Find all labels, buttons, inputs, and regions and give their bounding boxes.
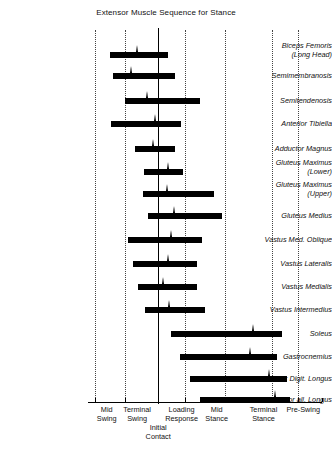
x-axis-tick-1 xyxy=(125,398,126,402)
row-label: Gluteus Maximus(Lower) xyxy=(214,159,332,176)
peak-marker xyxy=(167,162,169,169)
x-phase-label-mid-stance: MidStance xyxy=(193,405,241,423)
activity-bar xyxy=(180,354,277,360)
peak-marker xyxy=(170,230,172,237)
row-label: Semitendenosis xyxy=(214,97,332,106)
gridline-0 xyxy=(95,30,96,402)
activity-bar xyxy=(110,52,168,58)
x-axis-tick-3 xyxy=(185,398,186,402)
peak-marker xyxy=(146,91,148,98)
activity-bar xyxy=(200,397,290,403)
activity-bar xyxy=(133,261,197,267)
activity-bar xyxy=(148,213,222,219)
row-label: Semimembranosis xyxy=(214,72,332,81)
peak-marker xyxy=(162,277,164,284)
activity-bar xyxy=(144,169,183,175)
row-label: Biceps Femoris(Long Head) xyxy=(214,42,332,59)
row-label: Vastus Lateralis xyxy=(214,260,332,269)
gridline-1 xyxy=(125,30,126,402)
peak-marker xyxy=(252,324,254,331)
peak-marker xyxy=(168,300,170,307)
activity-bar xyxy=(171,331,282,337)
peak-marker xyxy=(166,184,168,191)
row-label: Adductor Magnus xyxy=(214,145,332,154)
gait-emg-chart: Extensor Muscle Sequence for Stance Bice… xyxy=(0,0,332,460)
activity-bar xyxy=(111,121,181,127)
activity-bar xyxy=(145,307,205,313)
row-label: Vastus Med. Oblique xyxy=(214,236,332,245)
row-label: Gluteus Medius xyxy=(214,212,332,221)
x-axis-tick-0 xyxy=(95,398,96,402)
x-axis-tick-2 xyxy=(158,398,159,402)
x-phase-label-pre-swing: Pre-Swing xyxy=(279,405,327,414)
peak-marker xyxy=(268,369,270,376)
peak-marker xyxy=(136,45,138,52)
row-label: Vastus Intermedius xyxy=(214,306,332,315)
activity-bar xyxy=(135,146,175,152)
activity-bar xyxy=(143,191,214,197)
activity-bar xyxy=(190,376,287,382)
peak-marker xyxy=(130,66,132,73)
plot-area: Biceps Femoris(Long Head)Semimembranosis… xyxy=(0,0,332,460)
row-label: Gluteus Maximus(Upper) xyxy=(214,181,332,198)
activity-bar xyxy=(125,98,200,104)
peak-marker xyxy=(152,139,154,146)
peak-marker xyxy=(173,206,175,213)
activity-bar xyxy=(128,237,202,243)
activity-bar xyxy=(113,73,175,79)
peak-marker xyxy=(274,390,276,397)
row-label: Anterior Tibiella xyxy=(214,120,332,129)
activity-bar xyxy=(138,284,197,290)
peak-marker xyxy=(167,254,169,261)
peak-marker xyxy=(249,347,251,354)
x-phase-label-initial-contact: InitialContact xyxy=(134,423,182,441)
x-phase-label-terminal-swing: TerminalSwing xyxy=(113,405,161,423)
peak-marker xyxy=(154,114,156,121)
row-label: Vastus Medialis xyxy=(214,283,332,292)
